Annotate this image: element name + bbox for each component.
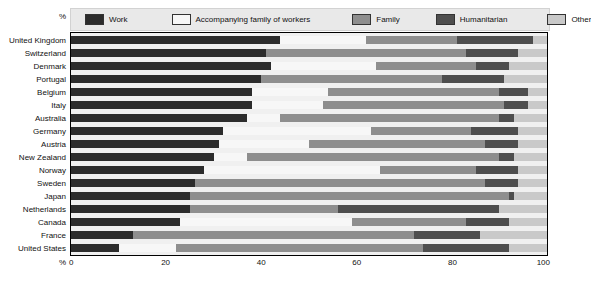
stacked-bar[interactable] (71, 231, 547, 239)
stacked-bar[interactable] (71, 101, 547, 109)
bar-segment-work (71, 62, 271, 70)
bar-segment-family (190, 192, 509, 200)
stacked-bar[interactable] (71, 114, 547, 122)
legend-unit-label: % (44, 12, 66, 21)
bar-segment-other (509, 218, 547, 226)
stacked-bar[interactable] (71, 88, 547, 96)
bar-segment-accomp (252, 101, 323, 109)
bar-segment-work (71, 166, 204, 174)
bar-row (71, 49, 547, 57)
category-label: New Zealand (0, 153, 66, 162)
legend-swatch-family-icon (352, 14, 371, 25)
bar-segment-accomp (219, 140, 309, 148)
bar-row (71, 153, 547, 161)
legend-swatch-work-icon (85, 14, 104, 25)
category-label: Portugal (0, 75, 66, 84)
bar-segment-work (71, 231, 133, 239)
bar-segment-accomp (280, 36, 366, 44)
bar-segment-accomp (252, 88, 328, 96)
bar-segment-accomp (180, 218, 351, 226)
bar-segment-work (71, 88, 252, 96)
bar-row (71, 166, 547, 174)
bar-segment-accomp (247, 114, 280, 122)
bar-segment-family (328, 88, 499, 96)
legend-item-work[interactable]: Work (85, 9, 128, 30)
bar-segment-work (71, 218, 180, 226)
category-label: Canada (0, 218, 66, 227)
bar-row (71, 244, 547, 252)
stacked-bar[interactable] (71, 192, 547, 200)
stacked-bar[interactable] (71, 75, 547, 83)
bar-segment-family (380, 166, 475, 174)
x-axis-tick-label: 80 (448, 258, 457, 267)
bar-segment-human (466, 49, 518, 57)
category-label: Denmark (0, 62, 66, 71)
stacked-bar[interactable] (71, 127, 547, 135)
bar-segment-human (471, 127, 519, 135)
bar-row (71, 179, 547, 187)
legend-item-family[interactable]: Family (352, 9, 400, 30)
stacked-bar[interactable] (71, 36, 547, 44)
stacked-bar[interactable] (71, 218, 547, 226)
stacked-bar[interactable] (71, 62, 547, 70)
legend-swatch-accomp-icon (172, 14, 191, 25)
category-axis-labels: United KingdomSwitzerlandDenmarkPortugal… (0, 32, 66, 256)
bar-segment-accomp (119, 244, 176, 252)
category-label: Belgium (0, 88, 66, 97)
bar-segment-other (509, 244, 547, 252)
legend-item-accomp[interactable]: Accompanying family of workers (172, 9, 311, 30)
bar-segment-family (261, 75, 442, 83)
bar-row (71, 114, 547, 122)
bar-segment-human (423, 244, 509, 252)
stacked-bar[interactable] (71, 205, 547, 213)
value-axis-ticks: 020406080100 (70, 257, 548, 271)
bar-segment-work (71, 205, 190, 213)
bar-segment-other (514, 114, 547, 122)
bar-segment-human (499, 88, 528, 96)
bar-segment-work (71, 75, 261, 83)
bar-row (71, 36, 547, 44)
legend-swatch-human-icon (436, 14, 455, 25)
bar-segment-other (533, 36, 547, 44)
category-label: Germany (0, 127, 66, 136)
bar-segment-human (485, 140, 518, 148)
category-label: Netherlands (0, 205, 66, 214)
legend-swatch-other-icon (547, 14, 566, 25)
stacked-bar[interactable] (71, 179, 547, 187)
bar-row (71, 218, 547, 226)
category-label: France (0, 231, 66, 240)
bar-segment-work (71, 192, 190, 200)
category-label: Japan (0, 192, 66, 201)
stacked-bar[interactable] (71, 49, 547, 57)
legend-item-other[interactable]: Other (547, 9, 591, 30)
stacked-bar[interactable] (71, 140, 547, 148)
stacked-bar[interactable] (71, 244, 547, 252)
bar-segment-family (247, 153, 499, 161)
bar-segment-family (366, 36, 456, 44)
stacked-bar[interactable] (71, 153, 547, 161)
bar-row (71, 140, 547, 148)
bar-row (71, 231, 547, 239)
bar-segment-human (457, 36, 533, 44)
category-label: United States (0, 244, 66, 253)
bar-row (71, 88, 547, 96)
bar-segment-work (71, 179, 195, 187)
category-label: Switzerland (0, 49, 66, 58)
bar-segment-family (190, 205, 338, 213)
bar-segment-human (485, 179, 518, 187)
bar-segment-family (371, 127, 471, 135)
legend-label-accomp: Accompanying family of workers (196, 15, 311, 24)
category-label: Australia (0, 114, 66, 123)
bar-segment-human (499, 153, 513, 161)
bar-segment-other (518, 127, 547, 135)
legend-label-work: Work (109, 15, 128, 24)
legend-item-human[interactable]: Humanitarian (436, 9, 508, 30)
bar-segment-family (266, 49, 466, 57)
x-axis-unit-label: % (44, 258, 66, 267)
bar-segment-human (499, 114, 513, 122)
x-axis-tick-label: 20 (161, 258, 170, 267)
bar-segment-human (414, 231, 481, 239)
stacked-bar[interactable] (71, 166, 547, 174)
bar-segment-accomp (223, 127, 371, 135)
